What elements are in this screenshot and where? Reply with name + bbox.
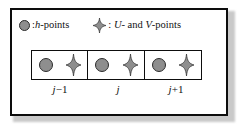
legend-uv-conjunction: - and [121,19,142,30]
grid-cell-j-plus-1 [144,50,202,80]
h-point-circle-icon [95,58,109,72]
legend-uv-suffix: -points [152,19,181,30]
uv-point-star-svg [66,54,81,76]
uv-point-star-svg [93,18,106,33]
h-point-circle-icon [19,20,30,31]
uv-point-star-icon [93,18,106,33]
index-label-j-plus-1: j+1 [147,83,205,95]
grid-cell-j [87,50,145,80]
figure-container: :h-points : U- and V-points [0,0,247,132]
index-number: 1 [62,83,68,95]
legend-uv-colon: : [108,19,111,30]
index-symbol: j [116,83,119,95]
uv-point-star-svg [179,54,194,76]
grid-index-labels: j−1 j j+1 [31,83,205,95]
uv-point-star-icon [179,54,194,76]
index-number: 1 [178,83,184,95]
legend-item-h-points: :h-points [19,20,69,31]
legend-label-h-points: :h-points [32,20,69,31]
legend: :h-points : U- and V-points [10,14,228,36]
grid-cell-row [31,50,202,80]
legend-item-uv-points: : U- and V-points [93,18,181,33]
uv-point-star-icon [123,54,138,76]
index-label-j: j [89,83,147,95]
legend-label-uv-points: : U- and V-points [108,20,181,31]
uv-point-star-svg [123,54,138,76]
index-label-j-minus-1: j−1 [31,83,89,95]
h-point-circle-icon [152,58,166,72]
grid-cell-j-minus-1 [31,50,89,80]
uv-point-star-icon [66,54,81,76]
h-point-circle-icon [39,58,53,72]
legend-h-suffix: -points [40,19,69,30]
